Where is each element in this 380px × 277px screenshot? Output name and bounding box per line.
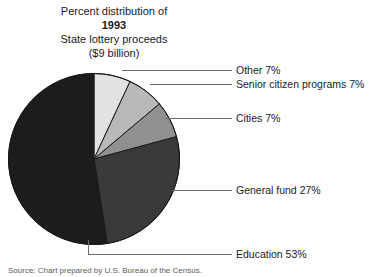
- leader-line-other: [122, 70, 232, 71]
- pie-graphic: [8, 73, 180, 245]
- leader-line-senior-citizen-programs: [150, 84, 232, 85]
- chart-title-block: Percent distribution of 1993 State lotte…: [24, 4, 204, 60]
- pie-chart-figure: Percent distribution of 1993 State lotte…: [0, 0, 380, 277]
- slice-label-senior-citizen-programs: Senior citizen programs 7%: [236, 78, 364, 90]
- title-year: 1993: [24, 18, 204, 32]
- slice-label-other: Other 7%: [236, 64, 280, 76]
- pie-svg: [8, 73, 180, 245]
- source-note: Source: Chart prepared by U.S. Bureau of…: [8, 266, 202, 276]
- slice-label-cities: Cities 7%: [236, 112, 280, 124]
- title-line-1: Percent distribution of: [24, 4, 204, 18]
- title-line-4: ($9 billion): [24, 46, 204, 60]
- leader-line-education: [88, 254, 232, 255]
- pie-slices-group: [9, 74, 180, 245]
- title-line-3: State lottery proceeds: [24, 32, 204, 46]
- slice-label-general-fund: General fund 27%: [236, 184, 321, 196]
- leader-line-cities: [165, 118, 232, 119]
- slice-label-education: Education 53%: [236, 248, 307, 260]
- leader-line-education-vertical: [88, 240, 89, 254]
- leader-line-general-fund: [172, 190, 232, 191]
- pie-slice-education: [9, 74, 108, 245]
